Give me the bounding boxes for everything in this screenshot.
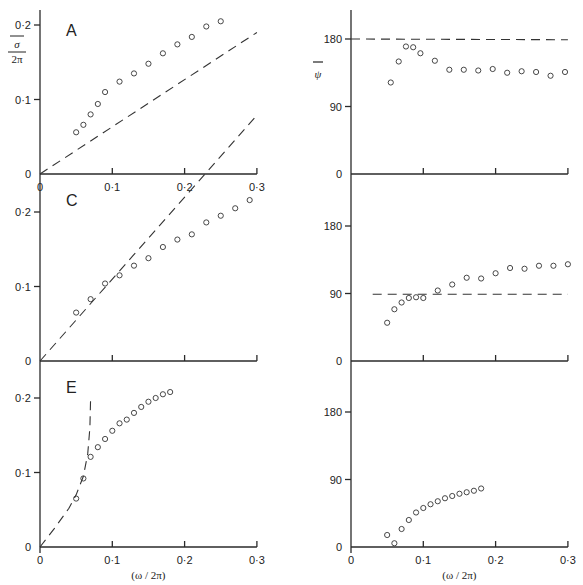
x-tick-label: 0 (348, 554, 354, 566)
panel-E: 00·10·20·300·10·2E(ω / 2π) (15, 367, 265, 582)
data-point (406, 517, 411, 522)
data-point (522, 266, 527, 271)
data-point (74, 496, 79, 501)
theory-dashed-line (40, 115, 257, 361)
data-point (533, 69, 538, 74)
data-point (548, 73, 553, 78)
data-point (88, 112, 93, 117)
y-tick-label: 0 (25, 355, 31, 367)
y-tick-label: 0·2 (15, 19, 31, 31)
y-tick-label: 0 (336, 355, 342, 367)
data-point (95, 101, 100, 106)
data-point (74, 130, 79, 135)
theory-dashed-line (40, 398, 91, 547)
data-point (385, 320, 390, 325)
data-point (493, 271, 498, 276)
panel-A: 00·10·20·300·10·2A (15, 10, 265, 193)
data-point (399, 300, 404, 305)
data-point (421, 295, 426, 300)
data-point (117, 79, 122, 84)
data-point (388, 80, 393, 85)
y-tick-label: 0 (336, 541, 342, 553)
data-point (102, 281, 107, 286)
data-point (565, 262, 570, 267)
data-point (131, 263, 136, 268)
data-point (102, 436, 107, 441)
x-tick-label: 0·2 (488, 554, 504, 566)
data-point (505, 70, 510, 75)
data-point (146, 61, 151, 66)
data-point (88, 454, 93, 459)
data-point (413, 295, 418, 300)
panel-D: 090180 (324, 180, 571, 367)
data-point (471, 488, 476, 493)
panel-label: C (66, 192, 78, 209)
data-point (507, 265, 512, 270)
figure: 00·10·20·300·10·2A09018000·10·2C09018000… (0, 0, 583, 585)
data-point (218, 213, 223, 218)
data-point (233, 206, 238, 211)
data-point (450, 282, 455, 287)
data-point (189, 34, 194, 39)
data-point (411, 45, 416, 50)
y-tick-label: 90 (330, 474, 342, 486)
data-point (413, 510, 418, 515)
y-tick-label: 90 (330, 288, 342, 300)
data-point (464, 275, 469, 280)
data-point (247, 197, 252, 202)
data-point (435, 288, 440, 293)
y-tick-label: 180 (324, 33, 342, 45)
data-point (479, 486, 484, 491)
data-point (403, 44, 408, 49)
y-tick-label: 0·2 (15, 206, 31, 218)
data-point (131, 410, 136, 415)
svg-text:2π: 2π (11, 53, 23, 65)
data-point (146, 256, 151, 261)
y-tick-label: 0 (336, 168, 342, 180)
data-point (490, 66, 495, 71)
y-tick-label: 180 (324, 406, 342, 418)
panel-label: E (66, 379, 77, 396)
data-point (421, 505, 426, 510)
x-tick-label: 0·1 (104, 181, 120, 193)
y-tick-label: 0·1 (15, 467, 31, 479)
data-point (476, 68, 481, 73)
x-tick-label: 0·1 (415, 554, 431, 566)
x-tick-label: 0·3 (249, 554, 265, 566)
data-point (124, 417, 129, 422)
data-point (392, 307, 397, 312)
svg-text:ψ: ψ (315, 68, 322, 80)
data-point (464, 490, 469, 495)
data-point (399, 526, 404, 531)
data-point (562, 69, 567, 74)
data-point (218, 19, 223, 24)
x-tick-label: 0·3 (249, 181, 265, 193)
data-point (442, 496, 447, 501)
data-point (432, 58, 437, 63)
data-point (428, 502, 433, 507)
panel-F: 00·10·20·3090180(ω / 2π) (324, 367, 576, 582)
data-point (435, 499, 440, 504)
y-tick-label: 0·1 (15, 94, 31, 106)
y-tick-label: 180 (324, 220, 342, 232)
data-point (396, 59, 401, 64)
data-point (457, 491, 462, 496)
data-point (81, 122, 86, 127)
y-tick-label: 90 (330, 101, 342, 113)
data-point (461, 67, 466, 72)
data-point (175, 237, 180, 242)
panel-B: 090180 (324, 10, 568, 180)
data-point (204, 220, 209, 225)
y-axis-title-left: σ2π (8, 36, 26, 65)
data-point (74, 310, 79, 315)
y-tick-label: 0 (25, 168, 31, 180)
data-point (117, 273, 122, 278)
panel-label: A (66, 22, 77, 39)
y-tick-label: 0 (25, 541, 31, 553)
data-point (175, 42, 180, 47)
data-point (204, 24, 209, 29)
y-tick-label: 0·2 (15, 392, 31, 404)
data-point (102, 89, 107, 94)
data-point (385, 532, 390, 537)
data-point (418, 51, 423, 56)
